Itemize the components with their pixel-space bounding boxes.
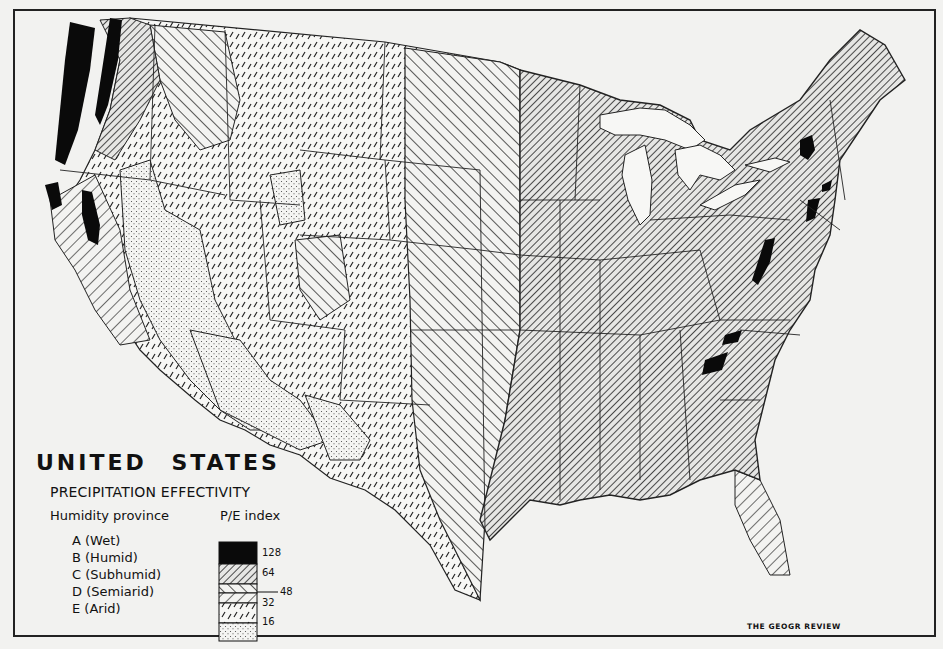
legend-class-d: D (Semiarid)	[72, 583, 161, 600]
swatch-wet	[219, 542, 257, 564]
precipitation-effectivity-map-figure: UNITED STATES PRECIPITATION EFFECTIVITY …	[0, 0, 943, 649]
swatch-semiarid	[219, 603, 257, 623]
map-subtitle: PRECIPITATION EFFECTIVITY	[50, 484, 250, 500]
source-credit: THE GEOGR REVIEW	[747, 622, 841, 631]
pe-index-64: 64	[262, 567, 275, 578]
legend-class-e: E (Arid)	[72, 600, 161, 617]
swatch-subhumid-lower	[219, 593, 257, 603]
legend-class-a: A (Wet)	[72, 532, 161, 549]
legend-pe-index-header: P/E index	[220, 508, 280, 523]
map-title: UNITED STATES	[36, 450, 280, 475]
zone-humid-east	[480, 30, 905, 540]
pe-index-128: 128	[262, 547, 281, 558]
legend-humidity-province-header: Humidity province	[50, 508, 169, 523]
legend-class-b: B (Humid)	[72, 549, 161, 566]
zone-subhumid-florida	[735, 470, 790, 575]
zone-wet-olympic-coast	[55, 22, 95, 165]
legend-class-list: A (Wet) B (Humid) C (Subhumid) D (Semiar…	[72, 532, 161, 617]
zone-wet-north-coast	[45, 182, 62, 210]
swatch-subhumid-upper	[219, 584, 257, 593]
pe-index-16: 16	[262, 616, 275, 627]
swatch-arid	[219, 623, 257, 641]
pe-index-48: 48	[280, 586, 293, 597]
swatch-humid	[219, 564, 257, 584]
legend-class-c: C (Subhumid)	[72, 566, 161, 583]
pe-index-32: 32	[262, 597, 275, 608]
